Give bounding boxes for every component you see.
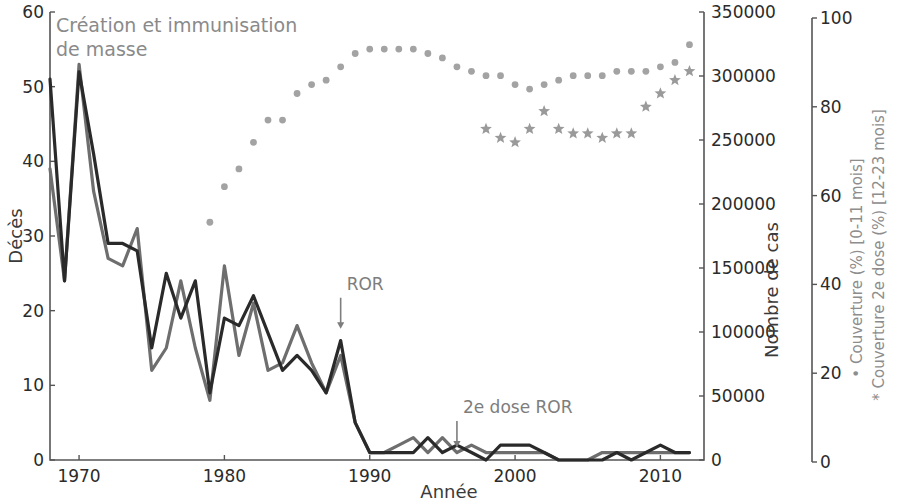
coverage-dot <box>308 81 315 88</box>
coverage-dot <box>628 68 635 75</box>
coverage-dot <box>221 183 228 190</box>
y-tick-label: 60 <box>22 2 44 22</box>
x-axis-label: Année <box>420 481 477 502</box>
coverage-dot <box>541 81 548 88</box>
y2-axis-label: Nombre de cas <box>761 222 782 358</box>
y-tick-label: 0 <box>33 450 44 470</box>
x-tick-label: 1980 <box>203 466 246 486</box>
coverage-dot <box>337 63 344 70</box>
coverage-dot <box>497 72 504 79</box>
y3-tick-label: 40 <box>820 274 842 294</box>
y2-tick-label: 200000 <box>711 194 776 214</box>
annotation-label: 2e dose ROR <box>463 397 573 417</box>
y2-tick-label: 250000 <box>711 130 776 150</box>
coverage-dot <box>526 86 533 93</box>
coverage-dot <box>206 219 213 226</box>
coverage-dot <box>352 50 359 57</box>
annotation-label: ROR <box>347 274 384 294</box>
y3-tick-label: 20 <box>820 363 842 383</box>
chart-title-line: de masse <box>56 38 147 60</box>
x-tick-label: 2010 <box>639 466 682 486</box>
coverage-dot <box>613 68 620 75</box>
coverage-dot <box>599 72 606 79</box>
coverage-dot <box>410 46 417 53</box>
y3-tick-label: 0 <box>820 452 831 472</box>
y2-tick-label: 300000 <box>711 66 776 86</box>
y-tick-label: 40 <box>22 151 44 171</box>
y3-tick-label: 100 <box>820 8 852 28</box>
y-tick-label: 20 <box>22 301 44 321</box>
coverage-dot <box>366 46 373 53</box>
coverage-dot <box>381 46 388 53</box>
coverage-dot <box>236 166 243 173</box>
y-axis-label: Décès <box>5 208 26 263</box>
coverage-dot <box>483 72 490 79</box>
y2-tick-label: 50000 <box>711 386 765 406</box>
coverage-dot <box>454 63 461 70</box>
y3-tick-label: 60 <box>820 186 842 206</box>
coverage-dot <box>424 50 431 57</box>
coverage-dot <box>512 81 519 88</box>
y3-tick-label: 80 <box>820 97 842 117</box>
chart-root: ROR2e dose ROR 0102030405060050000100000… <box>0 0 898 504</box>
coverage-dot <box>265 117 272 124</box>
x-tick-label: 1970 <box>57 466 100 486</box>
measles-vaccination-chart: ROR2e dose ROR 0102030405060050000100000… <box>0 0 898 504</box>
coverage-dot <box>468 68 475 75</box>
coverage-dot <box>570 72 577 79</box>
y-tick-label: 50 <box>22 77 44 97</box>
coverage-dot <box>294 90 301 97</box>
y2-tick-label: 0 <box>711 450 722 470</box>
coverage-dot <box>672 59 679 66</box>
coverage-dot <box>642 68 649 75</box>
coverage-dot <box>323 77 330 84</box>
coverage-dot <box>250 139 257 146</box>
coverage-dot <box>555 77 562 84</box>
y-tick-label: 10 <box>22 375 44 395</box>
coverage-dot <box>395 46 402 53</box>
coverage-dot <box>584 72 591 79</box>
x-tick-label: 2000 <box>493 466 536 486</box>
x-tick-label: 1990 <box>348 466 391 486</box>
coverage-dot <box>439 55 446 62</box>
coverage-dots-axis-label: • Couverture (%) [0-11 mois] <box>848 158 866 377</box>
coverage-dot <box>686 41 693 48</box>
coverage-dot <box>657 63 664 70</box>
chart-title-line: Création et immunisation <box>56 14 297 36</box>
coverage-dot <box>279 117 286 124</box>
coverage-stars-axis-label: * Couverture 2e dose (%) [12-23 mois] <box>870 109 888 401</box>
y2-tick-label: 350000 <box>711 2 776 22</box>
